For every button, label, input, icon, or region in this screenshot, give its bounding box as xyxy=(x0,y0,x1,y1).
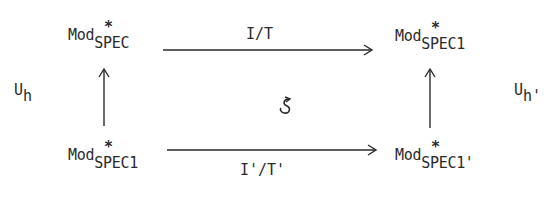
edge-label-left: Uh xyxy=(14,83,32,98)
edge-label-right: Uh' xyxy=(514,83,541,98)
label-base: U xyxy=(14,81,23,99)
node-sup: * xyxy=(431,140,440,155)
node-base: Mod xyxy=(68,26,94,44)
node-bottom-left: Mod*SPEC1 xyxy=(68,147,138,163)
node-sub: SPEC1 xyxy=(421,35,465,53)
arrow-bottom xyxy=(167,145,376,155)
node-base: Mod xyxy=(395,146,421,164)
edge-label-bottom: I'/T' xyxy=(240,163,285,178)
node-bottom-right: Mod*SPEC1' xyxy=(395,147,474,163)
edge-label-top: I/T xyxy=(246,27,273,42)
node-sub: SPEC1' xyxy=(421,154,473,172)
node-top-left: Mod*SPEC xyxy=(68,27,129,43)
node-top-right: Mod*SPEC1 xyxy=(395,28,465,44)
label-sub: h' xyxy=(523,87,541,105)
node-sub: SPEC xyxy=(94,34,129,52)
node-base: Mod xyxy=(68,146,94,164)
arrow-left xyxy=(99,69,109,126)
label-base: U xyxy=(514,81,523,99)
node-base: Mod xyxy=(395,27,421,45)
node-sup: * xyxy=(104,20,113,35)
node-sup: * xyxy=(431,21,440,36)
arrow-top xyxy=(163,45,372,55)
arrow-right xyxy=(425,69,435,128)
label-sub: h xyxy=(23,87,32,105)
node-sub: SPEC1 xyxy=(94,154,138,172)
commutes-icon xyxy=(280,97,290,113)
node-sup: * xyxy=(104,140,113,155)
